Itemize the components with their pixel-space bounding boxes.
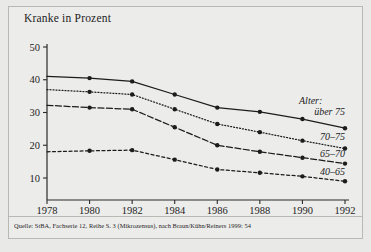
chart-legend: Alter:über 7570–7565–7040–65 <box>298 95 345 177</box>
data-point-marker <box>87 76 91 80</box>
data-point-marker <box>258 110 262 114</box>
data-point-marker <box>173 125 177 129</box>
series-lines <box>47 76 347 184</box>
legend-heading: Alter: <box>298 95 322 106</box>
x-axis-tick-label: 1984 <box>164 205 186 216</box>
x-axis-tick-label: 1980 <box>79 205 100 216</box>
data-point-marker <box>87 105 91 109</box>
data-point-marker <box>173 107 177 111</box>
data-point-marker <box>300 117 304 121</box>
legend-item-label: 70–75 <box>320 131 345 142</box>
data-point-marker <box>130 107 134 111</box>
x-axis-tick-label: 1986 <box>207 205 228 216</box>
x-axis-tick-label: 1990 <box>292 205 313 216</box>
data-point-marker <box>343 126 347 130</box>
series-line <box>47 105 345 163</box>
x-axis-tick-label: 1988 <box>249 205 270 216</box>
figure-container: Kranke in Prozent 1020304050197819801982… <box>0 0 371 252</box>
y-axis-tick-label: 20 <box>30 140 41 151</box>
data-point-marker <box>215 105 219 109</box>
y-axis-tick-label: 40 <box>30 74 41 85</box>
data-point-marker <box>173 92 177 96</box>
data-point-marker <box>87 90 91 94</box>
data-point-marker <box>130 148 134 152</box>
source-caption: Quelle: StBA, Fachserie 12, Reihe S. 3 (… <box>14 222 251 229</box>
legend-item-label: 40–65 <box>320 166 345 177</box>
data-point-marker <box>173 157 177 161</box>
data-point-marker <box>300 155 304 159</box>
legend-item-label: 65–70 <box>320 148 345 159</box>
y-axis-tick-label: 50 <box>30 42 41 53</box>
data-point-marker <box>130 92 134 96</box>
legend-item-label: über 75 <box>314 106 345 117</box>
data-point-marker <box>215 143 219 147</box>
x-axis-tick-label: 1992 <box>335 205 356 216</box>
axes: 1020304050197819801982198419861988199019… <box>30 42 356 216</box>
data-point-marker <box>215 167 219 171</box>
data-point-marker <box>300 174 304 178</box>
data-point-marker <box>258 150 262 154</box>
chart-plot: 1020304050197819801982198419861988199019… <box>0 0 371 252</box>
data-point-marker <box>258 130 262 134</box>
data-point-marker <box>343 179 347 183</box>
data-point-marker <box>258 171 262 175</box>
data-point-marker <box>130 79 134 83</box>
x-axis-tick-label: 1982 <box>122 205 143 216</box>
data-point-marker <box>300 138 304 142</box>
x-axis-tick-label: 1978 <box>37 205 58 216</box>
y-axis-tick-label: 10 <box>30 173 41 184</box>
y-axis-tick-label: 30 <box>30 107 41 118</box>
data-point-marker <box>215 122 219 126</box>
data-point-marker <box>87 149 91 153</box>
caption-divider <box>9 216 362 217</box>
